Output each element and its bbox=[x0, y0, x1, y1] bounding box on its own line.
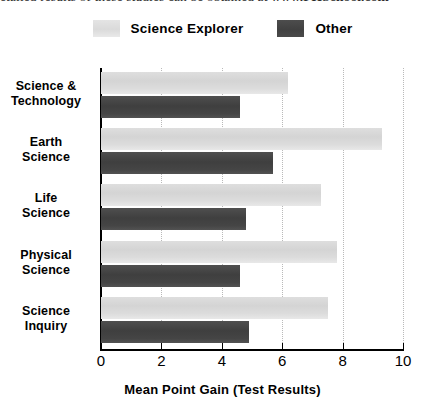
category-label: ScienceInquiry bbox=[0, 304, 92, 334]
category-label: EarthScience bbox=[0, 135, 92, 165]
bar-science-explorer bbox=[101, 297, 328, 319]
chart-plot-area: 0246810 Science &TechnologyEarthScienceL… bbox=[0, 0, 445, 416]
bar-group: PhysicalScience bbox=[0, 237, 445, 293]
bar-other bbox=[101, 152, 273, 174]
bar-other bbox=[101, 208, 246, 230]
bar-science-explorer bbox=[101, 241, 337, 263]
category-label: PhysicalScience bbox=[0, 248, 92, 278]
bar-other bbox=[101, 265, 240, 287]
x-axis-tick-label: 2 bbox=[157, 352, 165, 369]
bar-science-explorer bbox=[101, 184, 321, 206]
x-axis-tick-label: 10 bbox=[395, 352, 412, 369]
bar-science-explorer bbox=[101, 72, 288, 94]
bar-other bbox=[101, 321, 249, 343]
bar-other bbox=[101, 96, 240, 118]
bar-group: ScienceInquiry bbox=[0, 293, 445, 349]
x-axis-tick-label: 8 bbox=[338, 352, 346, 369]
x-axis-tick-label: 4 bbox=[218, 352, 226, 369]
bar-group: Science &Technology bbox=[0, 68, 445, 124]
x-axis-tick-label: 0 bbox=[97, 352, 105, 369]
x-axis-tick-label: 6 bbox=[278, 352, 286, 369]
category-label: LifeScience bbox=[0, 191, 92, 221]
category-label: Science &Technology bbox=[0, 79, 92, 109]
bar-group: LifeScience bbox=[0, 180, 445, 236]
bar-science-explorer bbox=[101, 128, 382, 150]
x-axis-line bbox=[100, 349, 404, 351]
bar-group: EarthScience bbox=[0, 124, 445, 180]
x-axis-title: Mean Point Gain (Test Results) bbox=[0, 382, 445, 397]
